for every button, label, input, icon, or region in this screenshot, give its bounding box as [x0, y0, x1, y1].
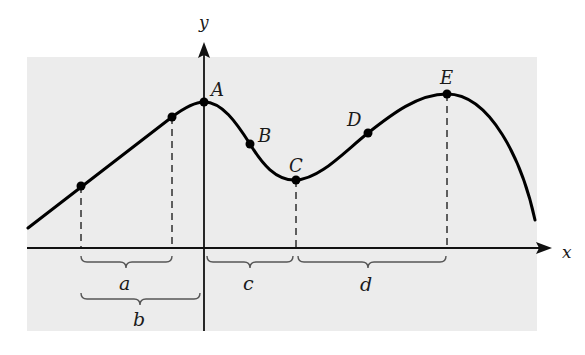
label-interval-c: c	[243, 272, 254, 294]
y-axis-label: y	[198, 12, 209, 32]
point-a	[200, 98, 209, 107]
label-a: A	[209, 79, 224, 100]
graph-canvas: x y A B C D E	[0, 0, 585, 355]
point-e	[443, 90, 452, 99]
background-panel	[27, 57, 537, 331]
point-second-dot	[168, 113, 177, 122]
label-e: E	[439, 67, 453, 88]
label-d: D	[346, 109, 362, 130]
function-graph-figure: x y A B C D E	[0, 0, 585, 355]
point-left-dot	[77, 182, 86, 191]
x-axis-label: x	[562, 242, 572, 262]
label-interval-a: a	[119, 272, 130, 294]
point-b	[246, 140, 255, 149]
point-c	[292, 176, 301, 185]
label-interval-b: b	[133, 308, 145, 330]
label-c: C	[289, 155, 303, 176]
label-interval-d: d	[360, 273, 372, 295]
point-d	[364, 129, 373, 138]
label-b: B	[257, 125, 271, 146]
